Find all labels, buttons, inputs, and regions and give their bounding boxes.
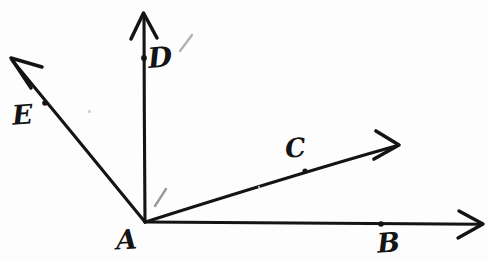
pencil-tick-near-d: [180, 35, 192, 51]
ray-ab: [145, 211, 483, 238]
ray-ac: [145, 131, 399, 222]
arrowhead-e: [11, 58, 42, 88]
ray-ae: [11, 58, 145, 222]
point-label-a: A: [115, 225, 137, 253]
point-marker-e: [42, 100, 48, 106]
paper-speck: [88, 110, 91, 113]
paper-speck: [258, 186, 260, 188]
point-marker-d: [141, 55, 147, 61]
point-marker-c: [302, 168, 307, 173]
point-label-c: C: [284, 134, 307, 162]
point-label-e: E: [11, 100, 33, 128]
point-label-b: B: [376, 228, 401, 257]
pencil-tick-near-vertex: [155, 189, 166, 206]
rays-diagram: [0, 0, 487, 261]
point-label-d: D: [147, 43, 174, 73]
diagram-canvas: A B C D E: [0, 0, 487, 261]
point-marker-b: [378, 221, 384, 227]
